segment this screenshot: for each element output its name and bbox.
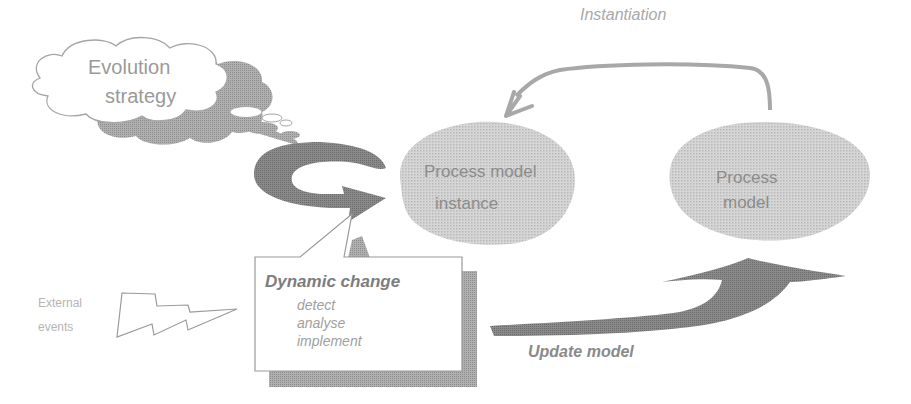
dynamic-change-step: implement <box>297 332 362 350</box>
external-events-line2: events <box>38 316 73 339</box>
instance-label-line1: Process model <box>424 160 536 183</box>
dynamic-change-step: analyse <box>297 314 345 332</box>
model-label-line1: Process <box>716 166 777 189</box>
dynamic-change-step: detect <box>297 296 335 314</box>
update-model-label: Update model <box>528 344 634 360</box>
dynamic-change-title: Dynamic change <box>265 273 400 290</box>
model-label-line2: model <box>723 191 769 214</box>
instance-label-line2: instance <box>435 192 498 215</box>
instantiation-label: Instantiation <box>580 7 666 23</box>
update-model-arrow <box>490 258 846 336</box>
cloud-label-line1: Evolution <box>88 57 170 77</box>
cycle-arrow <box>254 142 386 222</box>
cloud-label-line2: strategy <box>105 86 176 106</box>
lightning-bolt-icon <box>117 293 237 337</box>
process-model-instance-blob <box>400 122 575 245</box>
instantiation-arrow <box>506 64 770 116</box>
external-events-line1: External <box>38 292 82 315</box>
callout-tail-shadow <box>348 236 370 258</box>
